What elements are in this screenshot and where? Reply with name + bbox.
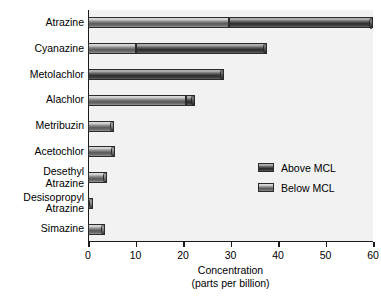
x-axis-title-line1: Concentration — [88, 264, 373, 277]
x-axis-tick — [278, 242, 280, 247]
x-axis-tick-label: 10 — [121, 249, 151, 261]
bar-segment-above-mcl[interactable] — [186, 95, 195, 106]
bar-segment-above-mcl[interactable] — [88, 69, 224, 80]
y-axis-category-labels: AtrazineCyanazineMetolachlorAlachlorMetr… — [0, 10, 84, 242]
bar-group[interactable] — [88, 17, 373, 28]
x-axis-tick-label: 60 — [358, 249, 381, 261]
legend-swatch-below-icon — [258, 183, 274, 192]
x-axis-tick — [183, 242, 185, 247]
x-axis-tick — [373, 242, 375, 247]
x-axis-tick-label: 50 — [311, 249, 341, 261]
x-axis-title-line2: (parts per billion) — [88, 277, 373, 290]
legend-label: Above MCL — [281, 162, 336, 174]
legend-item[interactable]: Above MCL — [258, 158, 336, 172]
bar-group[interactable] — [88, 146, 373, 157]
y-axis-label: Atrazine — [0, 17, 84, 29]
bar-segment-below-mcl[interactable] — [88, 224, 105, 235]
x-axis-title: Concentration (parts per billion) — [88, 264, 373, 289]
y-axis-label: Desisopropyl Atrazine — [0, 192, 84, 215]
bar-group[interactable] — [88, 69, 373, 80]
y-axis-label: Simazine — [0, 223, 84, 235]
x-axis-tick-label: 30 — [216, 249, 246, 261]
bar-segment-below-mcl[interactable] — [88, 17, 229, 28]
bar-segment-below-mcl[interactable] — [88, 146, 115, 157]
y-axis-label: Alachlor — [0, 94, 84, 106]
chart-legend: Above MCLBelow MCL — [258, 158, 336, 198]
bar-segment-above-mcl[interactable] — [229, 17, 373, 28]
bar-segment-below-mcl[interactable] — [88, 95, 186, 106]
x-axis-tick — [231, 242, 233, 247]
legend-label: Below MCL — [281, 182, 335, 194]
bar-group[interactable] — [88, 198, 373, 209]
bar-group[interactable] — [88, 95, 373, 106]
bar-segment-below-mcl[interactable] — [88, 121, 114, 132]
bar-group[interactable] — [88, 121, 373, 132]
bar-segment-below-mcl[interactable] — [88, 172, 107, 183]
x-axis-tick-label: 0 — [73, 249, 103, 261]
x-axis-tick — [88, 242, 90, 247]
legend-item[interactable]: Below MCL — [258, 178, 336, 192]
x-axis-tick — [326, 242, 328, 247]
y-axis-label: Metolachlor — [0, 69, 84, 81]
bar-group[interactable] — [88, 43, 373, 54]
y-axis-label: Acetochlor — [0, 146, 84, 158]
bar-segment-above-mcl[interactable] — [136, 43, 266, 54]
bar-chart: AtrazineCyanazineMetolachlorAlachlorMetr… — [0, 0, 381, 298]
y-axis-label: Cyanazine — [0, 43, 84, 55]
legend-swatch-above-icon — [258, 163, 274, 172]
x-axis-tick — [136, 242, 138, 247]
bar-group[interactable] — [88, 224, 373, 235]
y-axis-label: Desethyl Atrazine — [0, 166, 84, 189]
bar-segment-below-mcl[interactable] — [88, 198, 93, 209]
bars-layer — [88, 10, 373, 242]
bar-segment-below-mcl[interactable] — [88, 43, 136, 54]
x-axis-tick-label: 20 — [168, 249, 198, 261]
y-axis-label: Metribuzin — [0, 120, 84, 132]
x-axis-tick-label: 40 — [263, 249, 293, 261]
